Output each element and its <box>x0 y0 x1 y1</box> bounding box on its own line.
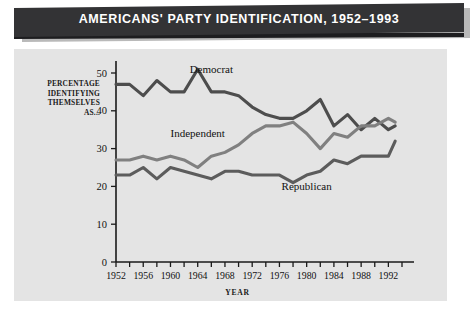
y-axis-caption: PERCENTAGEIDENTIFYINGTHEMSELVESAS... <box>38 79 100 117</box>
x-tick-label: 1980 <box>297 270 317 281</box>
series-line-republican <box>116 141 395 183</box>
x-tick-label: 1984 <box>324 270 344 281</box>
series-line-democrat <box>116 69 395 129</box>
x-tick-label: 1976 <box>270 270 290 281</box>
banner-bar: AMERICANS' PARTY IDENTIFICATION, 1952–19… <box>14 3 464 37</box>
x-tick-label: 1968 <box>215 270 235 281</box>
x-axis-caption: YEAR <box>0 288 475 297</box>
y-axis-caption-line: IDENTIFYING <box>38 89 100 99</box>
y-tick-label: 10 <box>97 219 108 230</box>
y-tick-label: 50 <box>97 68 108 79</box>
y-tick-label: 0 <box>102 257 107 268</box>
y-axis-caption-line: AS... <box>38 108 100 118</box>
series-label-independent: Independent <box>171 127 225 139</box>
x-tick-label: 1960 <box>161 270 181 281</box>
y-axis-caption-line: PERCENTAGE <box>38 79 100 89</box>
y-tick-label: 20 <box>97 181 108 192</box>
y-axis-caption-line: THEMSELVES <box>38 98 100 108</box>
x-tick-label: 1972 <box>242 270 262 281</box>
x-tick-label: 1992 <box>379 270 399 281</box>
x-tick-label: 1956 <box>133 270 153 281</box>
x-tick-label: 1988 <box>351 270 371 281</box>
series-label-republican: Republican <box>282 180 333 192</box>
x-tick-label: 1952 <box>106 270 126 281</box>
x-tick-label: 1964 <box>188 270 208 281</box>
series-label-democrat: Democrat <box>190 63 233 75</box>
chart-title: AMERICANS' PARTY IDENTIFICATION, 1952–19… <box>79 12 400 26</box>
chart-screenshot: AMERICANS' PARTY IDENTIFICATION, 1952–19… <box>0 0 475 310</box>
y-tick-label: 30 <box>97 143 108 154</box>
title-banner: AMERICANS' PARTY IDENTIFICATION, 1952–19… <box>0 0 475 46</box>
